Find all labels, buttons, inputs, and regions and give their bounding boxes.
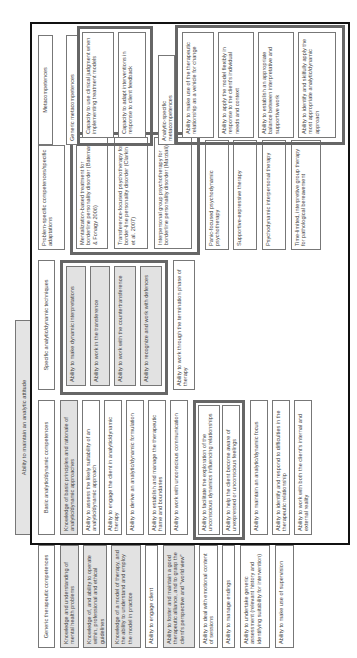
item-label: Ability to make use of the therapeutic r…: [185, 42, 197, 134]
item-label: Ability to derive an analytic/dynamic fo…: [129, 413, 135, 531]
item-label: Capacity to adapt interventions in respo…: [121, 51, 133, 134]
generic-item: Knowledge of, and ability to operate wit…: [83, 545, 107, 648]
basic-item: Knowledge of basic principles and ration…: [60, 400, 78, 535]
item-label: Ability to foster and maintain a good th…: [166, 552, 185, 644]
meta-item: Capacity to use clinical judgment when i…: [82, 32, 114, 138]
specific-item: Ability to make dynamic interpretations: [66, 266, 86, 386]
generic-item: Ability to deal with emotional content o…: [199, 545, 218, 648]
basic-competences-header: Basic analytic/dynamic competences: [38, 400, 55, 535]
problem-item: Mentalization-based treatment for border…: [76, 137, 108, 249]
specific-item: Ability to work through the termination …: [173, 260, 195, 390]
basic-group-item: Ability to help the client become aware …: [222, 405, 240, 535]
item-label: Mentalization-based treatment for border…: [79, 144, 98, 245]
generic-item: Ability to engage client: [145, 545, 158, 648]
generic-item: Ability to manage endings: [222, 545, 235, 648]
item-label: Ability to work with the countertransfer…: [117, 275, 123, 382]
item-label: Supportive-expressive therapy: [236, 170, 242, 246]
item-label: Ability to manage endings: [225, 580, 231, 644]
generic-item: Ability to undertake generic assessment …: [240, 545, 270, 648]
item-label: Ability to engage the client in analytic…: [107, 417, 119, 531]
header-label: Problem-specific competences/specific ad…: [41, 150, 53, 246]
basic-item: Ability to assess the likely suitability…: [82, 400, 100, 535]
problem-specific-header: Problem-specific competences/specific ad…: [38, 145, 65, 250]
specific-techniques-header: Specific analytic/dynamic techniques: [38, 260, 55, 390]
header-label: Generic therapeutic competences: [43, 555, 49, 639]
problem-item: Transference-focused psychotherapy for b…: [114, 137, 148, 249]
item-label: Psychodynamic interpersonal therapy: [265, 153, 271, 246]
header-label: Generic metacompetences: [69, 74, 75, 141]
item-label: Ability to apply the model flexibly in r…: [221, 47, 240, 134]
generic-item: Knowledge and understanding of mental he…: [60, 545, 79, 648]
item-label: Time-limited, interpretive group therapy…: [294, 149, 306, 246]
item-label: Knowledge and understanding of mental he…: [63, 562, 75, 644]
item-label: Ability to recognize and work with defen…: [143, 275, 149, 382]
item-label: Ability to facilitate the exploration of…: [201, 413, 213, 531]
basic-item: Ability to maintain an analytic/dynamic …: [250, 400, 268, 535]
item-label: Ability to maintain an analytic/dynamic …: [253, 422, 259, 531]
basic-item: Ability to work with unconscious communi…: [170, 400, 188, 535]
item-label: Ability to deal with emotional content o…: [202, 554, 214, 644]
item-label: Knowledge of a model of therapy, and the…: [114, 550, 133, 644]
header-label: Analytic-specific metacompetences: [161, 95, 173, 141]
item-label: Ability to undertake generic assessment …: [243, 554, 262, 644]
item-label: Panic-focused psychodynamic psychotherap…: [208, 170, 220, 246]
generic-item: Ability to foster and maintain a good th…: [163, 545, 195, 648]
item-label: Knowledge of, and ability to operate wit…: [86, 555, 105, 644]
specific-item: Ability to recognize and work with defen…: [140, 266, 162, 386]
item-label: Interpersonal group psychotherapy for bo…: [157, 145, 169, 245]
basic-item: Ability to derive an analytic/dynamic fo…: [126, 400, 144, 535]
basic-group-item: Ability to facilitate the exploration of…: [198, 405, 220, 535]
item-label: Ability to establish an appropriate bala…: [261, 47, 280, 134]
meta-item: Ability to apply the model flexibly in r…: [218, 32, 254, 138]
item-label: Ability to establish and manage the ther…: [151, 415, 163, 531]
competence-framework-diagram: Ability to maintain an analytic attitude…: [0, 0, 357, 658]
problem-item: Panic-focused psychodynamic psychotherap…: [205, 140, 229, 250]
item-label: Ability to work with both the client's i…: [297, 414, 309, 531]
header-label: Specific analytic/dynamic techniques: [43, 279, 49, 370]
header-label: Metacompetences: [42, 67, 48, 113]
item-label: Ability to work through the termination …: [176, 269, 188, 386]
item-label: Ability to make use of supervision: [278, 561, 284, 644]
generic-competences-header: Generic therapeutic competences: [38, 545, 55, 648]
meta-item: Capacity to adapt interventions in respo…: [118, 32, 146, 138]
item-label: Ability to identify and skilfully apply …: [301, 39, 320, 134]
meta-item: Ability to identify and skilfully apply …: [298, 32, 336, 138]
generic-item: Ability to make use of supervision: [275, 545, 294, 648]
basic-item: Ability to work with both the client's i…: [294, 400, 312, 535]
problem-item: Time-limited, interpretive group therapy…: [291, 140, 321, 250]
specific-item: Ability to work in the transference: [90, 266, 110, 386]
banner-label: Ability to maintain an analytic attitude: [21, 380, 27, 475]
analytic-metacompetences-header: Analytic-specific metacompetences: [158, 55, 175, 145]
item-label: Ability to identify and respond to diffi…: [275, 410, 287, 531]
basic-item: Ability to identify and respond to diffi…: [272, 400, 290, 535]
meta-item: Ability to make use of the therapeutic r…: [182, 32, 214, 138]
specific-item: Ability to work with the countertransfer…: [114, 266, 136, 386]
problem-item: Psychodynamic interpersonal therapy: [262, 140, 286, 250]
problem-item: Interpersonal group psychotherapy for bo…: [154, 137, 192, 249]
item-label: Ability to work in the transference: [93, 300, 99, 382]
generic-item: Knowledge of a model of therapy, and the…: [111, 545, 141, 648]
problem-item: Supportive-expressive therapy: [233, 140, 257, 250]
basic-item: Ability to engage the client in analytic…: [104, 400, 122, 535]
item-label: Ability to help the client become aware …: [225, 429, 237, 531]
header-label: Basic analytic/dynamic competences: [43, 422, 49, 513]
item-label: Knowledge of basic principles and ration…: [63, 417, 75, 531]
item-label: Ability to engage client: [148, 588, 154, 644]
basic-item: Ability to establish and manage the ther…: [148, 400, 166, 535]
item-label: Transference-focused psychotherapy for b…: [117, 145, 136, 245]
item-label: Ability to work with unconscious communi…: [173, 413, 179, 531]
meta-item: Ability to establish an appropriate bala…: [258, 32, 294, 138]
item-label: Ability to make dynamic interpretations: [69, 286, 75, 382]
item-label: Ability to assess the likely suitability…: [85, 429, 97, 531]
item-label: Capacity to use clinical judgment when i…: [85, 38, 97, 134]
metacompetences-header: Metacompetences: [38, 35, 53, 145]
